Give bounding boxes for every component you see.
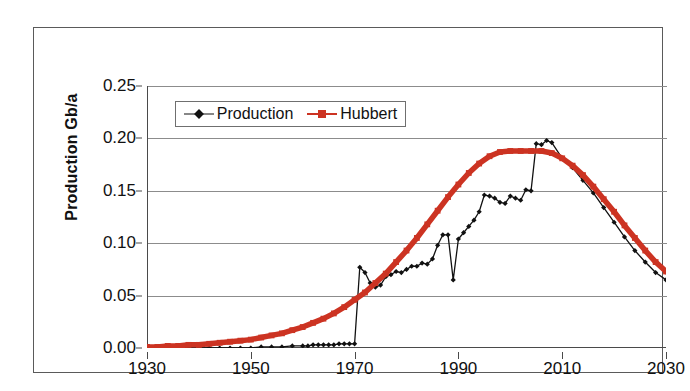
data-point-marker [300,343,305,348]
data-point-marker [404,248,410,254]
y-axis-tick-mark [136,138,142,139]
x-axis-tick-mark [355,352,356,359]
y-axis-tick: 0.05 [74,296,142,316]
legend-label-hubbert: Hubbert [340,105,397,123]
data-point-marker [601,196,607,202]
data-point-marker [217,340,223,346]
data-point-marker [196,342,202,348]
data-point-marker [362,290,368,296]
y-axis-tick-labels: 0.250.200.150.100.050.00 [74,86,142,348]
data-point-marker [393,259,399,265]
data-point-marker [518,198,523,203]
chart-figure: Production Gb/a 0.250.200.150.100.050.00… [0,0,690,391]
chart-legend: Production Hubbert [175,101,406,127]
data-point-marker [414,235,420,241]
data-point-marker [186,342,192,348]
data-point-marker [570,163,576,169]
data-point-marker [321,316,327,322]
x-axis-tick-mark [666,352,667,359]
data-point-marker [326,342,331,347]
y-axis-tick-label: 0.25 [74,76,142,96]
y-axis-tick: 0.10 [74,243,142,263]
data-point-marker [497,149,503,155]
data-point-marker [611,209,617,215]
data-point-marker [248,345,253,348]
y-axis-tick-mark [136,348,142,349]
data-point-marker [347,341,352,346]
data-point-marker [528,148,534,154]
x-axis-tick: 1950 [216,352,286,379]
data-point-marker [482,192,487,197]
data-point-marker [622,222,628,228]
data-point-marker [290,343,295,348]
y-axis-tick-mark [136,86,142,87]
x-axis-tick: 2030 [631,352,690,379]
data-point-marker [154,344,160,348]
figure-frame: Production Gb/a 0.250.200.150.100.050.00… [33,27,663,373]
data-point-marker [590,184,596,190]
data-point-marker [518,148,524,154]
data-point-marker [352,297,358,303]
x-axis-tick-label: 2030 [631,352,690,379]
data-point-marker [424,221,430,227]
data-point-marker [580,172,586,178]
data-point-marker [206,341,212,347]
y-axis-tick-label: 0.20 [74,128,142,148]
y-axis-tick: 0.15 [74,191,142,211]
data-point-marker [175,343,181,348]
data-point-marker [227,345,232,348]
data-point-marker [248,337,254,343]
y-axis-tick-label: 0.05 [74,286,142,306]
data-point-marker [227,339,233,345]
legend-item-production: Production [184,105,294,123]
data-point-marker [147,344,150,348]
x-axis-tick: 1930 [112,352,182,379]
x-axis-tick: 2010 [527,352,597,379]
x-axis-tick-mark [562,352,563,359]
data-point-marker [316,342,321,347]
data-point-marker [523,187,528,192]
production-line-marker-icon [184,108,214,120]
data-point-marker [259,344,264,348]
x-axis-tick-labels: 193019501970199020102030 [147,352,666,382]
data-point-marker [476,161,482,167]
data-point-marker [549,150,555,156]
data-point-marker [528,188,533,193]
data-point-marker [238,345,243,348]
data-point-marker [653,259,659,265]
data-point-marker [435,243,440,248]
series-markers-production [147,138,666,348]
data-point-marker [539,148,545,154]
data-point-marker [451,277,456,282]
data-point-marker [663,269,666,275]
data-point-marker [372,280,378,286]
data-point-marker [258,335,264,341]
x-axis-tick-mark [147,352,148,359]
data-point-marker [632,235,638,241]
data-point-marker [269,344,274,348]
data-point-marker [305,343,310,348]
data-point-marker [440,232,445,237]
data-point-marker [279,344,284,348]
data-point-marker [507,148,513,154]
y-axis-tick-label: 0.10 [74,233,142,253]
data-point-marker [165,343,171,348]
y-axis-tick-mark [136,190,142,191]
data-point-marker [487,193,492,198]
legend-item-hubbert: Hubbert [307,105,397,123]
data-point-marker [435,208,441,214]
data-point-marker [279,330,285,336]
data-point-marker [331,342,336,347]
legend-label-production: Production [217,105,294,123]
y-axis-tick-mark [136,295,142,296]
x-axis-tick: 1990 [423,352,493,379]
data-point-marker [341,304,347,310]
y-axis-tick: 0.20 [74,138,142,158]
hubbert-line-marker-icon [307,108,337,120]
series-line-production [147,141,666,349]
data-point-marker [217,345,222,348]
data-point-marker [342,341,347,346]
data-point-marker [310,320,316,326]
data-point-marker [534,141,539,146]
data-point-marker [269,333,275,339]
